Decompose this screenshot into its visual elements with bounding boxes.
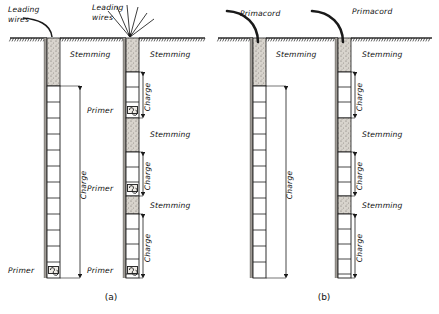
label-stemming: Stemming: [362, 201, 403, 210]
hole-a2: StemmingChargeStemmingChargeStemmingChar…: [87, 3, 191, 278]
label-leading-wires-1: Leading: [92, 3, 124, 12]
ground-line-4: [265, 38, 338, 41]
stemming-fill: [126, 196, 139, 214]
label-charge: Charge: [285, 171, 294, 200]
stemming-fill: [126, 38, 139, 72]
leading-wire-strand-2: [127, 5, 130, 37]
label-primer: Primer: [87, 184, 114, 193]
deck-stemming-0: [338, 38, 351, 72]
label-charge: Charge: [355, 83, 364, 112]
label-stemming: Stemming: [150, 50, 191, 59]
panel-caption-a: (a): [105, 292, 118, 302]
label-stemming: Stemming: [150, 130, 191, 139]
stemming-fill: [338, 118, 351, 152]
deck-charge-1: [47, 86, 80, 278]
hole-a1: StemmingChargePrimerLeadingwires: [8, 5, 111, 278]
ground-line-0: [9, 38, 47, 41]
stemming-fill: [253, 38, 266, 86]
ground-line-3: [217, 38, 253, 41]
label-primer: Primer: [8, 266, 35, 275]
figure-canvas: StemmingChargePrimerLeadingwiresStemming…: [0, 0, 439, 314]
label-primacord: Primacord: [352, 7, 392, 16]
stemming-fill: [338, 196, 351, 214]
deck-stemming-4: [338, 196, 351, 214]
deck-stemming-2: [338, 118, 351, 152]
deck-charge-3: [338, 152, 355, 196]
stemming-fill: [338, 38, 351, 72]
deck-stemming-0: [126, 38, 139, 72]
leading-wire-strand-5: [130, 19, 154, 37]
label-charge: Charge: [143, 234, 152, 263]
label-charge: Charge: [143, 162, 152, 191]
ground-line-1: [59, 38, 126, 41]
deck-stemming-2: [126, 118, 139, 152]
label-primacord: Primacord: [240, 9, 280, 18]
rock-wall-left: [44, 38, 47, 278]
hole-b2: StemmingChargeStemmingChargeStemmingChar…: [312, 7, 403, 278]
label-stemming: Stemming: [362, 130, 403, 139]
label-stemming: Stemming: [362, 50, 403, 59]
blasting-diagram-svg: StemmingChargePrimerLeadingwiresStemming…: [0, 0, 439, 314]
charge-column: [338, 72, 351, 118]
ground-line-2: [138, 38, 205, 41]
rock-wall-left: [250, 38, 253, 278]
charge-column: [338, 214, 351, 278]
deck-stemming-0: [47, 38, 60, 86]
deck-charge-1: [338, 72, 355, 118]
label-primer: Primer: [87, 266, 114, 275]
label-charge: Charge: [355, 234, 364, 263]
rock-wall-left: [123, 38, 126, 278]
label-stemming: Stemming: [70, 50, 111, 59]
label-leading-wires-2: wires: [92, 13, 113, 22]
deck-charge-1: [253, 86, 286, 278]
leading-wire-strand-4: [130, 13, 147, 37]
leading-wire-strand-3: [130, 7, 138, 37]
deck-stemming-0: [253, 38, 266, 86]
deck-stemming-4: [126, 196, 139, 214]
wire-bundle-knot: [128, 33, 132, 37]
hole-b1: StemmingChargePrimacord: [227, 9, 317, 278]
label-leading-wires-1: Leading: [8, 5, 40, 14]
label-charge: Charge: [143, 83, 152, 112]
deck-charge-5: [338, 214, 355, 278]
label-stemming: Stemming: [150, 201, 191, 210]
label-leading-wires-2: wires: [8, 15, 29, 24]
stemming-fill: [126, 118, 139, 152]
charge-column: [338, 152, 351, 196]
stemming-fill: [47, 38, 60, 86]
label-charge: Charge: [355, 162, 364, 191]
panel-caption-b: (b): [318, 292, 331, 302]
label-stemming: Stemming: [276, 50, 317, 59]
rock-wall-left: [335, 38, 338, 278]
label-primer: Primer: [87, 106, 114, 115]
ground-line-5: [350, 38, 432, 41]
